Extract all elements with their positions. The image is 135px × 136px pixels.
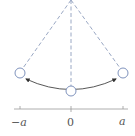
- pendulum-diagram: −a 0 a: [0, 0, 135, 136]
- bob-center: [66, 86, 76, 96]
- bob-right: [118, 68, 128, 78]
- label-a: a: [119, 116, 126, 127]
- label-zero: 0: [67, 117, 74, 128]
- string-right: [71, 0, 120, 68]
- bob-left: [15, 68, 25, 78]
- string-left: [23, 0, 71, 68]
- label-neg-a: −a: [11, 117, 27, 128]
